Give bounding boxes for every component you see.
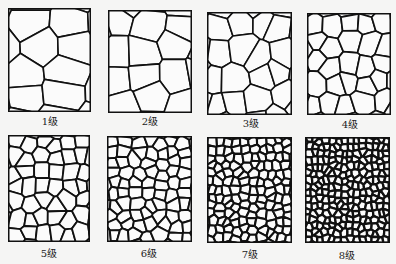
grain [108, 35, 129, 67]
grain-cells [207, 12, 292, 115]
grain-structure-1 [8, 8, 91, 112]
grain [34, 162, 49, 178]
grain-structure-2 [108, 10, 192, 113]
grade-label: 5级 [19, 248, 79, 260]
grain [227, 12, 253, 36]
grade-label: 4级 [320, 119, 380, 131]
grain-panel-grade-6 [107, 136, 192, 242]
grain [341, 14, 359, 31]
grain-panel-grade-3 [207, 12, 292, 115]
grain-structure-4 [307, 13, 391, 115]
grain-cells [8, 135, 90, 242]
grain-structure-8 [305, 137, 390, 243]
grade-label: 6级 [119, 248, 179, 260]
grade-label: 7级 [220, 249, 280, 261]
grade-label: 2级 [120, 116, 180, 128]
grade-label: 1级 [20, 116, 80, 128]
grain-cells [305, 137, 390, 243]
grain [207, 65, 222, 94]
grain-cells [8, 8, 91, 112]
grain-structure-5 [8, 135, 90, 242]
grain [60, 135, 76, 149]
grain-cells [107, 136, 192, 242]
grade-label: 3级 [221, 118, 281, 130]
grain-cells [207, 137, 292, 243]
grain-panel-grade-5 [8, 135, 90, 242]
grain-panel-grade-2 [108, 10, 192, 113]
grain-cells [307, 13, 391, 115]
grain-panel-grade-1 [8, 8, 91, 112]
grain [75, 135, 91, 148]
grain-panel-grade-8 [305, 137, 390, 243]
grain-structure-3 [207, 12, 292, 115]
grain-structure-6 [107, 136, 192, 242]
grain-cells [108, 10, 192, 113]
grain-structure-7 [207, 137, 292, 243]
grain-panel-grade-7 [207, 137, 292, 243]
grain [72, 221, 90, 242]
grain-panel-grade-4 [307, 13, 391, 115]
grade-label: 8级 [317, 250, 377, 262]
